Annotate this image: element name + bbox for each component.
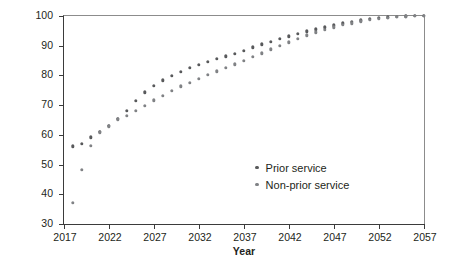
y-tick-label: 70 [25, 98, 53, 110]
data-point [422, 14, 425, 17]
data-point [251, 55, 254, 58]
y-tick-label: 30 [25, 217, 53, 229]
x-tick-label: 2047 [323, 231, 346, 243]
data-point [206, 73, 209, 76]
x-tick: 2017 [64, 224, 65, 229]
x-tick: 2042 [289, 224, 290, 229]
data-point [260, 43, 263, 46]
data-point [143, 91, 146, 94]
data-point [206, 60, 209, 63]
data-point [107, 125, 110, 128]
data-point [377, 17, 380, 20]
legend-marker-icon [255, 183, 259, 187]
y-tick-label: 100 [25, 9, 53, 21]
data-point [305, 34, 308, 37]
data-point [368, 18, 371, 21]
data-point [314, 31, 317, 34]
data-point [152, 84, 155, 87]
x-tick: 2047 [334, 224, 335, 229]
chart-figure: Percentage Year 30405060708090100 201720… [0, 0, 458, 271]
data-point [332, 26, 335, 29]
data-point [287, 40, 290, 43]
data-point [296, 37, 299, 40]
data-point [134, 99, 137, 102]
x-tick-label: 2037 [233, 231, 256, 243]
data-point [215, 70, 218, 73]
legend-marker-icon [255, 166, 259, 170]
x-tick-label: 2022 [98, 231, 121, 243]
x-tick-label: 2057 [413, 231, 436, 243]
data-point [260, 51, 263, 54]
x-axis-title: Year [63, 245, 425, 257]
data-point [197, 63, 200, 66]
data-point [179, 85, 182, 88]
data-point [71, 144, 74, 147]
x-tick: 2032 [199, 224, 200, 229]
data-point [188, 66, 191, 69]
x-tick: 2052 [379, 224, 380, 229]
data-point [125, 114, 128, 117]
x-tick: 2027 [154, 224, 155, 229]
data-point [179, 70, 182, 73]
data-point [116, 118, 119, 121]
data-point [233, 52, 236, 55]
data-point [404, 15, 407, 18]
data-point [125, 109, 128, 112]
data-point [323, 28, 326, 31]
data-point [197, 77, 200, 80]
x-tick-label: 2052 [368, 231, 391, 243]
plot-area: 30405060708090100 2017202220272032203720… [63, 15, 425, 225]
data-point [134, 109, 137, 112]
data-point [359, 20, 362, 23]
data-point [269, 48, 272, 51]
data-point [224, 66, 227, 69]
x-tick-label: 2032 [188, 231, 211, 243]
data-point [161, 79, 164, 82]
legend-label: Prior service [266, 162, 327, 174]
data-point [89, 136, 92, 139]
data-point [242, 59, 245, 62]
legend-item[interactable]: Non-prior service [255, 176, 395, 193]
data-point [98, 131, 101, 134]
y-tick-label: 40 [25, 187, 53, 199]
data-point [278, 37, 281, 40]
data-point [287, 35, 290, 38]
legend-item[interactable]: Prior service [255, 159, 395, 176]
data-point [350, 21, 353, 24]
data-point [215, 57, 218, 60]
data-point [188, 81, 191, 84]
x-tick-label: 2027 [143, 231, 166, 243]
data-point [341, 23, 344, 26]
data-point [170, 74, 173, 77]
data-point [152, 99, 155, 102]
data-point [269, 40, 272, 43]
data-point [89, 144, 92, 147]
x-tick: 2037 [244, 224, 245, 229]
x-tick: 2022 [109, 224, 110, 229]
data-point [296, 32, 299, 35]
data-point [305, 30, 308, 33]
y-tick-label: 60 [25, 128, 53, 140]
data-point [278, 44, 281, 47]
data-point [233, 62, 236, 65]
data-point [251, 45, 254, 48]
data-point [413, 14, 416, 17]
x-tick-label: 2042 [278, 231, 301, 243]
legend-label: Non-prior service [266, 179, 350, 191]
data-point [143, 104, 146, 107]
data-point [161, 94, 164, 97]
data-point [71, 201, 74, 204]
data-point [386, 16, 389, 19]
y-tick-label: 50 [25, 158, 53, 170]
data-point [224, 54, 227, 57]
data-point [395, 15, 398, 18]
data-point [80, 142, 83, 145]
y-tick-label: 80 [25, 68, 53, 80]
data-point [242, 49, 245, 52]
data-point [170, 89, 173, 92]
y-tick-label: 90 [25, 39, 53, 51]
x-tick: 2057 [424, 224, 425, 229]
x-tick-label: 2017 [53, 231, 76, 243]
data-point [80, 168, 83, 171]
chart-legend: Prior serviceNon-prior service [255, 159, 395, 193]
